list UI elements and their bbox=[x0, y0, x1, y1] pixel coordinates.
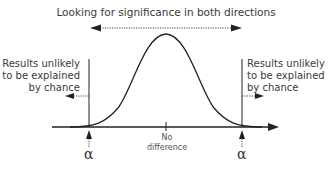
alpha-left-label: α bbox=[84, 148, 93, 160]
right-alpha-arrow-icon bbox=[239, 130, 245, 147]
left-alpha-arrow-icon bbox=[86, 130, 92, 147]
no-difference-label: No difference bbox=[140, 133, 194, 153]
bell-curve bbox=[70, 34, 262, 127]
left-region-line-1: Results unlikely bbox=[2, 58, 80, 70]
diagram-title: Looking for significance in both directi… bbox=[0, 6, 332, 18]
right-region-line-2: to be explained bbox=[247, 70, 325, 82]
right-region-label: Results unlikely to be explained by chan… bbox=[247, 58, 325, 94]
x-axis-arrow-icon bbox=[268, 123, 279, 131]
left-region-label: Results unlikely to be explained by chan… bbox=[2, 58, 80, 94]
right-region-line-3: by chance bbox=[247, 82, 325, 94]
alpha-right-label: α bbox=[237, 148, 246, 160]
left-region-line-3: by chance bbox=[2, 82, 80, 94]
right-region-line-1: Results unlikely bbox=[247, 58, 325, 70]
two-direction-arrow bbox=[90, 25, 242, 32]
left-region-line-2: to be explained bbox=[2, 70, 80, 82]
center-label-line-2: difference bbox=[140, 143, 194, 153]
center-label-line-1: No bbox=[140, 133, 194, 143]
